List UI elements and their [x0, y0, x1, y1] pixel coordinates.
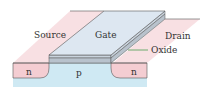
source-label: Source [34, 30, 66, 40]
n-well-right [111, 63, 147, 78]
n-right-label: n [131, 67, 137, 77]
oxide-label: Oxide [151, 45, 177, 55]
drain-label: Drain [165, 31, 191, 41]
oxide-front-face [49, 58, 111, 63]
gate-front-face [49, 55, 111, 58]
p-center-label: p [76, 68, 82, 78]
mosfet-svg: Source Gate Drain Oxide n p n [0, 0, 211, 92]
mosfet-diagram: Source Gate Drain Oxide n p n [0, 0, 211, 92]
n-left-label: n [26, 67, 32, 77]
gate-label: Gate [95, 30, 117, 40]
